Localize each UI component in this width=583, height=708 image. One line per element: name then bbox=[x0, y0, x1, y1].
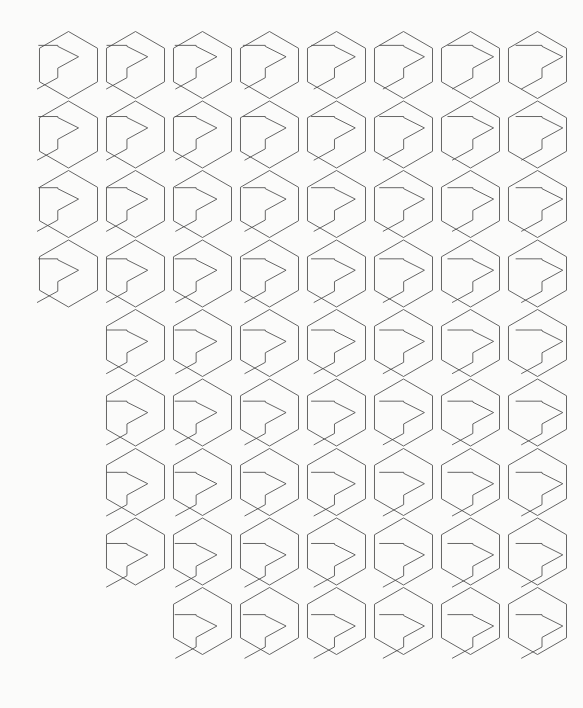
glyph-polyline bbox=[106, 401, 148, 445]
hexagon-outline bbox=[307, 379, 365, 446]
glyph-polyline bbox=[516, 543, 563, 587]
glyph-polyline bbox=[37, 259, 79, 303]
glyph-polyline bbox=[106, 472, 148, 516]
hexagon-cell bbox=[240, 101, 298, 168]
hexagon-cell bbox=[240, 518, 298, 587]
hexagon-cell bbox=[37, 171, 98, 238]
glyph-polyline bbox=[106, 543, 148, 587]
hexagon-outline bbox=[441, 518, 499, 585]
glyph-polyline bbox=[311, 330, 355, 374]
hexagon-cell bbox=[508, 171, 566, 238]
glyph-polyline bbox=[37, 188, 79, 232]
glyph-polyline bbox=[311, 401, 355, 445]
hexagon-cell bbox=[307, 310, 365, 377]
hexagon-outline bbox=[240, 240, 298, 307]
hexagon-cell bbox=[441, 32, 499, 99]
hexagon-cell bbox=[173, 240, 231, 307]
hexagon-cell bbox=[374, 518, 432, 587]
hexagon-cell bbox=[240, 379, 298, 446]
hexagon-cell bbox=[37, 101, 98, 168]
hexagon-cell bbox=[240, 240, 298, 307]
hexagon-outline bbox=[441, 171, 499, 238]
hexagon-cell bbox=[106, 379, 164, 446]
glyph-polyline bbox=[243, 543, 286, 587]
hexagon-outline bbox=[374, 449, 432, 516]
hexagon-cell bbox=[374, 171, 432, 238]
glyph-polyline bbox=[106, 117, 148, 161]
hexagon-cell bbox=[240, 588, 298, 659]
hexagon-outline bbox=[106, 171, 164, 238]
hexagon-cell bbox=[374, 101, 432, 168]
hexagon-cell bbox=[106, 171, 164, 238]
glyph-polyline bbox=[311, 615, 355, 659]
hexagon-outline bbox=[240, 588, 298, 655]
glyph-polyline bbox=[311, 472, 355, 516]
glyph-polyline bbox=[447, 117, 493, 161]
glyph-polyline bbox=[447, 259, 493, 303]
glyph-polyline bbox=[175, 330, 217, 374]
hexagon-outline bbox=[508, 588, 566, 655]
glyph-polyline bbox=[175, 401, 217, 445]
hexagon-outline bbox=[106, 379, 164, 446]
hexagon-outline bbox=[508, 101, 566, 168]
hexagon-cell bbox=[240, 310, 298, 377]
hexagon-cell bbox=[240, 449, 298, 517]
hexagon-outline bbox=[173, 588, 231, 655]
hexagon-cells-layer bbox=[37, 32, 567, 659]
hexagon-outline bbox=[307, 32, 365, 99]
glyph-polyline bbox=[447, 188, 493, 232]
hexagon-cell bbox=[106, 518, 164, 587]
glyph-canvas bbox=[0, 0, 583, 708]
glyph-polyline bbox=[243, 45, 286, 89]
glyph-polyline bbox=[379, 472, 424, 516]
glyph-polyline bbox=[379, 45, 424, 89]
hexagon-cell bbox=[441, 240, 499, 307]
hexagon-cell bbox=[508, 32, 566, 99]
hexagon-cell bbox=[508, 379, 566, 446]
glyph-polyline bbox=[447, 401, 493, 445]
glyph-polyline bbox=[447, 543, 493, 587]
hexagon-outline bbox=[240, 310, 298, 377]
hexagon-cell bbox=[307, 101, 365, 168]
hexagon-cell bbox=[441, 310, 499, 377]
hexagon-cell bbox=[37, 32, 98, 99]
hexagon-outline bbox=[441, 240, 499, 307]
hexagon-cell bbox=[173, 449, 231, 517]
hexagon-outline bbox=[441, 588, 499, 655]
hexagon-outline bbox=[173, 240, 231, 307]
hexagon-cell bbox=[240, 171, 298, 238]
glyph-polyline bbox=[516, 330, 563, 374]
glyph-polyline bbox=[175, 45, 217, 89]
hexagon-outline bbox=[307, 240, 365, 307]
hexagon-cell bbox=[240, 32, 298, 99]
hexagon-cell bbox=[441, 588, 499, 659]
hexagon-cell bbox=[307, 240, 365, 307]
glyph-polyline bbox=[311, 45, 355, 89]
hexagon-cell bbox=[374, 449, 432, 517]
glyph-polyline bbox=[243, 259, 286, 303]
hexagon-outline bbox=[240, 449, 298, 516]
hexagon-outline bbox=[106, 310, 164, 377]
hexagon-outline bbox=[240, 518, 298, 585]
glyph-polyline bbox=[379, 615, 424, 659]
hexagon-outline bbox=[508, 310, 566, 377]
hexagon-cell bbox=[441, 171, 499, 238]
hexagon-outline bbox=[39, 240, 97, 307]
hexagon-outline bbox=[508, 518, 566, 585]
hexagon-outline bbox=[508, 240, 566, 307]
hexagon-outline bbox=[240, 171, 298, 238]
hexagon-cell bbox=[508, 101, 566, 168]
hexagon-outline bbox=[374, 310, 432, 377]
hexagon-outline bbox=[441, 379, 499, 446]
glyph-polyline bbox=[175, 117, 217, 161]
hexagon-outline bbox=[374, 240, 432, 307]
hexagon-outline bbox=[441, 101, 499, 168]
glyph-polyline bbox=[516, 401, 563, 445]
hexagon-cell bbox=[173, 379, 231, 446]
hexagon-outline bbox=[307, 449, 365, 516]
hexagon-cell bbox=[374, 588, 432, 659]
hexagon-outline bbox=[173, 518, 231, 585]
glyph-polyline bbox=[379, 259, 424, 303]
hexagon-outline bbox=[173, 379, 231, 446]
hexagon-cell bbox=[374, 32, 432, 99]
